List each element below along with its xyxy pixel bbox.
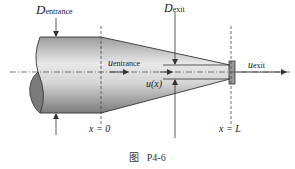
caption-prefix: 图 (129, 152, 139, 163)
x-zero-label: x = 0 (89, 124, 110, 134)
d-exit-label: Dexit (164, 2, 185, 14)
u-x-label: u(x) (146, 79, 162, 89)
exit-flange (229, 61, 235, 84)
u-entrance-label: uentrance (108, 58, 140, 68)
pipe-body (34, 37, 230, 113)
figure-caption: 图 P4-6 (0, 149, 295, 164)
x-L-label: x = L (219, 124, 241, 134)
caption-id: P4-6 (147, 152, 166, 163)
u-exit-label: uexit (248, 60, 265, 70)
d-entrance-label: Dentrance (36, 3, 72, 16)
